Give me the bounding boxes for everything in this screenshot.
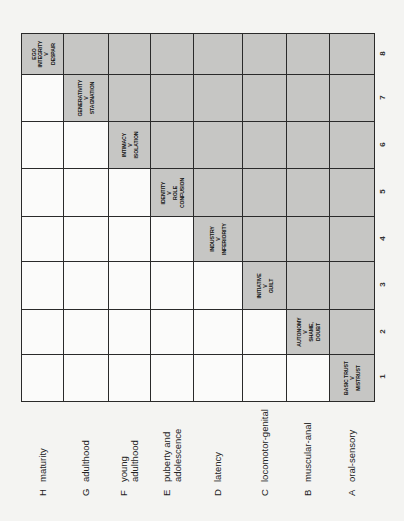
stage-letter: E (161, 482, 172, 496)
column-number-label: 8 (378, 48, 387, 58)
crisis-cell: INTIMACYVISOLATION (108, 121, 152, 170)
grid-cell (150, 74, 195, 123)
grid-cell (329, 121, 375, 170)
crisis-cell: IDENTITYVROLECONFUSION (150, 168, 195, 218)
grid-cell (242, 33, 288, 76)
crisis-label: INITIATIVEVGUILT (255, 273, 274, 298)
grid-cell (21, 354, 65, 402)
stage-name: oral-sensory (346, 430, 357, 482)
stage-label: Gadulthood (80, 440, 91, 496)
grid-cell (150, 261, 195, 311)
grid-cell (193, 261, 244, 311)
grid-cell (193, 354, 244, 402)
grid-cell (242, 216, 288, 263)
grid-cell (286, 33, 331, 76)
column-number-label: 6 (378, 139, 387, 149)
stage-name: adulthood (129, 440, 140, 482)
column-number-label: 4 (378, 233, 387, 243)
grid-cell (286, 74, 331, 123)
grid-cell (21, 168, 65, 218)
stage-letter: F (118, 482, 129, 496)
stage-name: adulthood (80, 440, 91, 482)
grid-cell (242, 74, 288, 123)
grid-cell (286, 168, 331, 218)
column-number-label: 7 (378, 92, 387, 102)
grid-cell (286, 354, 331, 402)
grid-cell (329, 168, 375, 218)
crisis-label: AUTONOMYVSHAME,DOUBT (296, 318, 321, 347)
grid-cell (329, 309, 375, 356)
grid-cell (21, 121, 65, 170)
grid-cell (63, 261, 110, 311)
stage-letter: B (302, 482, 313, 496)
column-number-label: 2 (378, 326, 387, 336)
crisis-label: IDENTITYVROLECONFUSION (160, 178, 185, 208)
grid-cell (108, 216, 152, 263)
stage-label: Bmuscular-anal (302, 422, 313, 496)
grid-cell (108, 168, 152, 218)
stage-label: Fyoungadulthood (118, 440, 140, 496)
grid-cell (63, 309, 110, 356)
grid-cell (108, 33, 152, 76)
grid-cell (150, 354, 195, 402)
column-number-label: 1 (378, 372, 387, 382)
grid-cell (63, 354, 110, 402)
stage-name: muscular-anal (302, 422, 313, 482)
crisis-cell: INITIATIVEVGUILT (242, 261, 288, 311)
stage-label: Dlatency (212, 452, 223, 496)
crisis-label: INDUSTRYVINFERIORITY (209, 223, 228, 255)
grid-cell (286, 121, 331, 170)
grid-cell (329, 216, 375, 263)
grid-cell (150, 121, 195, 170)
grid-cell (193, 121, 244, 170)
psychosocial-stage-grid: EGOINTEGRITYVDESPAIRGENERATIVITYVSTAGNAT… (0, 0, 404, 521)
crisis-cell: EGOINTEGRITYVDESPAIR (21, 33, 65, 76)
grid-cell (242, 354, 288, 402)
stage-name: maturity (37, 448, 48, 482)
stage-letter: H (37, 482, 48, 496)
stage-letter: D (212, 482, 223, 496)
grid-cell (21, 261, 65, 311)
crisis-cell: AUTONOMYVSHAME,DOUBT (286, 309, 331, 356)
crisis-cell: INDUSTRYVINFERIORITY (193, 216, 244, 263)
grid-cell (21, 74, 65, 123)
grid-cell (286, 261, 331, 311)
grid-cell (242, 309, 288, 356)
stage-label: Aoral-sensory (346, 430, 357, 496)
grid-cell (108, 261, 152, 311)
grid-cell (108, 309, 152, 356)
crisis-label: BASIC TRUSTVMISTRUST (342, 361, 361, 395)
grid-cell (150, 33, 195, 76)
grid-cell (63, 33, 110, 76)
stage-letter: C (259, 482, 270, 496)
grid-cell (242, 168, 288, 218)
stage-label: Hmaturity (37, 448, 48, 496)
grid-cell (193, 309, 244, 356)
stage-letter: A (346, 482, 357, 496)
grid-cell (329, 261, 375, 311)
grid-cell (63, 168, 110, 218)
grid-cell (21, 309, 65, 356)
grid-cell (108, 354, 152, 402)
column-number-label: 5 (378, 187, 387, 197)
grid-cell (329, 33, 375, 76)
grid-cell (21, 216, 65, 263)
stage-name: latency (212, 452, 223, 482)
stage-name: locomotor-genital (259, 409, 270, 482)
grid-cell (63, 216, 110, 263)
grid-cell (286, 216, 331, 263)
crisis-cell: BASIC TRUSTVMISTRUST (329, 354, 375, 402)
stage-name: young (118, 440, 129, 482)
crisis-label: INTIMACYVISOLATION (120, 132, 139, 159)
grid-cell (150, 309, 195, 356)
stage-label: Clocomotor-genital (259, 409, 270, 496)
grid-cell (242, 121, 288, 170)
grid-cell (108, 74, 152, 123)
stage-label: Epuberty andadolescence (161, 429, 183, 496)
grid-cell (329, 74, 375, 123)
stage-letter: G (80, 482, 91, 496)
stage-name: puberty and (161, 429, 172, 482)
grid-cell (193, 74, 244, 123)
grid-cell (193, 168, 244, 218)
column-number-label: 3 (378, 280, 387, 290)
